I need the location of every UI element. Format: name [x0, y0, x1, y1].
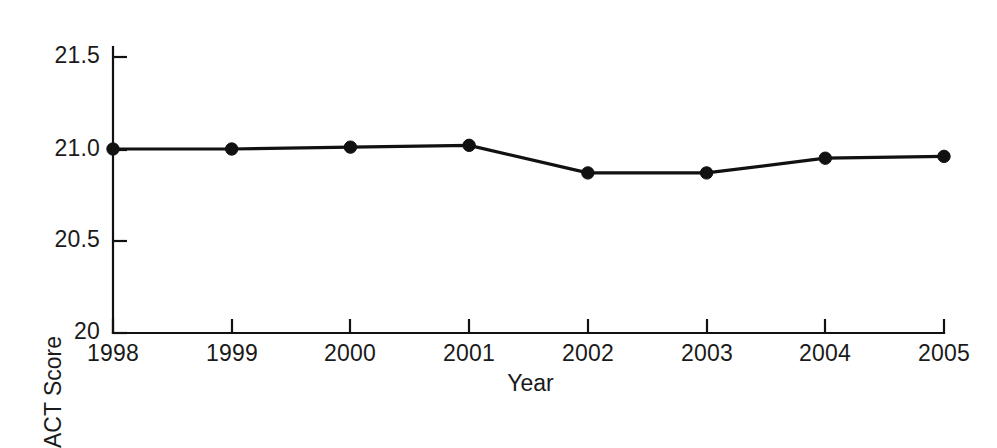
x-axis-title-text: Year: [507, 370, 553, 396]
y-tick-label-20-5: 20.5: [0, 226, 100, 253]
data-point-2001: [463, 139, 475, 151]
x-tick-label-2004: 2004: [765, 340, 885, 367]
data-point-2000: [344, 141, 356, 153]
x-tick-label-2002: 2002: [528, 340, 648, 367]
y-tick-label-21-5: 21.5: [0, 42, 100, 69]
x-tick-label-2001: 2001: [409, 340, 529, 367]
data-point-2005: [938, 150, 950, 162]
data-point-2002: [582, 167, 594, 179]
y-tick-label-21-0: 21.0: [0, 135, 100, 162]
x-tick-label-1999: 1999: [172, 340, 292, 367]
data-point-2003: [700, 167, 712, 179]
x-axis-title: Year: [0, 370, 997, 397]
x-tick-label-1998: 1998: [53, 340, 173, 367]
data-point-2004: [819, 152, 831, 164]
x-tick-label-2000: 2000: [290, 340, 410, 367]
data-point-1999: [226, 143, 238, 155]
x-tick-label-2005: 2005: [884, 340, 997, 367]
x-tick-label-2003: 2003: [647, 340, 767, 367]
data-point-1998: [107, 143, 119, 155]
